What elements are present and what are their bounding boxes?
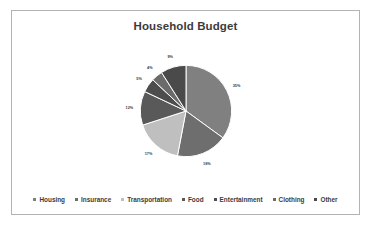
legend-item-label: Insurance <box>81 197 111 203</box>
pie-slice-label: 5% <box>136 77 142 81</box>
legend-item-label: Clothing <box>279 197 305 203</box>
legend-marker-icon <box>75 198 78 201</box>
legend-marker-icon <box>214 198 217 201</box>
chart-frame: Household Budget 35%18%17%12%5%4%9% Hous… <box>11 10 360 215</box>
legend-item[interactable]: Entertainment <box>214 197 263 203</box>
pie-slice-label: 12% <box>125 106 133 110</box>
pie-slice-group <box>140 65 231 156</box>
legend-marker-icon <box>121 198 124 201</box>
legend-item[interactable]: Housing <box>33 197 65 203</box>
legend-item[interactable]: Transportation <box>121 197 172 203</box>
legend-marker-icon <box>273 198 276 201</box>
pie-svg: 35%18%17%12%5%4%9% <box>112 37 260 185</box>
pie-slice-label: 17% <box>144 152 152 156</box>
legend-item[interactable]: Insurance <box>75 197 111 203</box>
legend-item-label: Housing <box>39 197 65 203</box>
legend-item-label: Entertainment <box>220 197 263 203</box>
legend-item-label: Transportation <box>127 197 172 203</box>
pie-slice-label: 18% <box>203 162 211 166</box>
pie-slice-label: 9% <box>167 55 173 59</box>
plot-area: 35%18%17%12%5%4%9% <box>12 37 359 187</box>
legend-item[interactable]: Food <box>182 197 204 203</box>
chart-legend: HousingInsuranceTransportationFoodEntert… <box>12 197 359 203</box>
legend-item[interactable]: Other <box>314 197 337 203</box>
legend-marker-icon <box>33 198 36 201</box>
pie-chart: 35%18%17%12%5%4%9% <box>112 37 260 185</box>
legend-marker-icon <box>314 198 317 201</box>
pie-slice-label: 4% <box>147 66 153 70</box>
legend-item-label: Other <box>320 197 337 203</box>
legend-marker-icon <box>182 198 185 201</box>
pie-slice-label: 35% <box>232 84 240 88</box>
legend-item[interactable]: Clothing <box>273 197 305 203</box>
legend-item-label: Food <box>188 197 204 203</box>
chart-title: Household Budget <box>12 20 359 32</box>
